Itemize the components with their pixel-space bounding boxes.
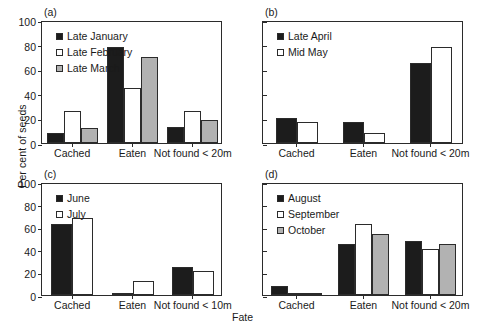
legend-label: October — [288, 224, 325, 238]
bar — [305, 293, 322, 295]
bar — [276, 118, 297, 143]
legend-swatch-icon — [277, 33, 284, 40]
x-axis-tick-label: Eaten — [350, 299, 377, 311]
y-axis-tick-label: 60 — [24, 65, 36, 77]
legend-label: July — [67, 208, 86, 222]
y-axis-tick — [263, 206, 267, 207]
panel-label: (d) — [265, 168, 278, 180]
legend-swatch-icon — [56, 211, 63, 218]
bar — [271, 286, 288, 295]
y-axis-tick-label: 0 — [30, 139, 36, 151]
legend-label: June — [67, 192, 90, 206]
bar — [193, 271, 214, 295]
y-axis-tick — [38, 184, 42, 185]
x-axis-tick-label: Not found < 20m — [392, 147, 470, 159]
legend: Late AprilMid May — [277, 30, 332, 62]
plot-area: 020406080100CachedEatenNot found < 10mJu… — [41, 183, 222, 296]
legend-label: Late January — [67, 30, 128, 44]
x-axis-tick-label: Eaten — [119, 147, 146, 159]
legend-swatch-icon — [277, 227, 284, 234]
y-axis-tick — [263, 274, 267, 275]
bar — [343, 122, 364, 143]
y-axis-tick — [38, 145, 42, 146]
bar — [167, 127, 184, 143]
bar — [72, 218, 93, 295]
x-axis-tick-label: Cached — [278, 299, 314, 311]
y-axis-tick — [263, 184, 267, 185]
y-axis-tick — [38, 71, 42, 72]
y-axis-tick — [263, 120, 267, 121]
legend-item: Mid May — [277, 46, 332, 60]
x-axis-tick-label: Cached — [54, 147, 90, 159]
legend: AugustSeptemberOctober — [277, 192, 339, 240]
legend-item: Late March — [56, 62, 132, 76]
x-axis-title: Fate — [0, 311, 485, 323]
panel-label: (a) — [44, 6, 57, 18]
bar — [81, 128, 98, 143]
legend-label: August — [288, 192, 321, 206]
y-axis-tick — [38, 46, 42, 47]
legend-item: Late January — [56, 30, 132, 44]
y-axis-tick — [263, 251, 267, 252]
bar — [51, 224, 72, 295]
bar — [405, 241, 422, 295]
y-axis-tick — [38, 95, 42, 96]
bar — [172, 267, 193, 295]
legend-label: Late March — [67, 62, 120, 76]
legend-swatch-icon — [56, 65, 63, 72]
legend-item: October — [277, 224, 339, 238]
panel-label: (c) — [44, 168, 56, 180]
y-axis-tick — [263, 22, 267, 23]
legend: JuneJuly — [56, 192, 90, 224]
panel-c: (c)020406080100CachedEatenNot found < 10… — [41, 183, 222, 296]
legend-label: Late February — [67, 46, 132, 60]
x-axis-tick-label: Cached — [278, 147, 314, 159]
plot-area: CachedEatenNot found < 20mLate AprilMid … — [262, 21, 463, 144]
legend-item: Late April — [277, 30, 332, 44]
bar — [201, 120, 218, 143]
y-axis-tick-label: 80 — [24, 41, 36, 53]
y-axis-tick-label: 80 — [24, 201, 36, 213]
x-axis-tick-label: Cached — [54, 299, 90, 311]
bar — [133, 281, 154, 295]
y-axis-tick-label: 40 — [24, 246, 36, 258]
y-axis-tick — [263, 229, 267, 230]
legend-item: June — [56, 192, 90, 206]
y-axis-tick — [38, 297, 42, 298]
legend-swatch-icon — [277, 49, 284, 56]
y-axis-tick — [38, 206, 42, 207]
legend-label: Mid May — [288, 46, 328, 60]
bar — [47, 133, 64, 143]
legend-swatch-icon — [56, 33, 63, 40]
bar — [124, 88, 141, 143]
bar — [338, 244, 355, 295]
x-axis-tick-label: Not found < 10m — [154, 299, 232, 311]
y-axis-tick-label: 40 — [24, 90, 36, 102]
x-axis-tick-label: Not found < 20m — [392, 299, 470, 311]
panel-d: (d)CachedEatenNot found < 20mAugustSepte… — [262, 183, 463, 296]
y-axis-tick-label: 100 — [18, 178, 36, 190]
y-axis-tick — [38, 120, 42, 121]
bar — [112, 293, 133, 295]
plot-area: CachedEatenNot found < 20mAugustSeptembe… — [262, 183, 463, 296]
x-axis-tick-label: Eaten — [350, 147, 377, 159]
y-axis-tick — [263, 46, 267, 47]
y-axis-tick — [38, 251, 42, 252]
legend-swatch-icon — [56, 195, 63, 202]
bar — [422, 249, 439, 295]
y-axis-tick-label: 20 — [24, 114, 36, 126]
legend-item: Late February — [56, 46, 132, 60]
bar — [372, 234, 389, 295]
legend-label: September — [288, 208, 339, 222]
y-axis-tick — [38, 274, 42, 275]
legend-label: Late April — [288, 30, 332, 44]
legend: Late JanuaryLate FebruaryLate March — [56, 30, 132, 78]
y-axis-tick-label: 60 — [24, 223, 36, 235]
legend-item: August — [277, 192, 339, 206]
bar — [431, 47, 452, 143]
y-axis-tick-label: 0 — [30, 291, 36, 303]
y-axis-tick — [263, 145, 267, 146]
panel-b: (b)CachedEatenNot found < 20mLate AprilM… — [262, 21, 463, 144]
legend-item: July — [56, 208, 90, 222]
bar — [410, 63, 431, 143]
